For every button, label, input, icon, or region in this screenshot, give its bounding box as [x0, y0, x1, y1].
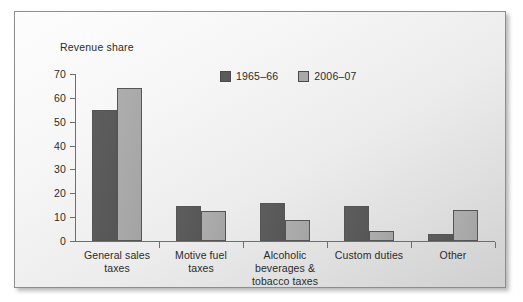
bar-series-1965-66[interactable] — [176, 206, 201, 241]
bar-series-2006-07[interactable] — [285, 220, 310, 241]
plot-area: 010203040506070 General salestaxesMotive… — [75, 74, 495, 241]
value-axis-tick-label: 30 — [54, 163, 66, 175]
category-axis-divider-tick — [411, 242, 412, 248]
category-axis-divider-tick — [159, 242, 160, 248]
bar-group — [260, 74, 310, 241]
value-axis-tick — [70, 193, 75, 194]
bar-series-1965-66[interactable] — [92, 110, 117, 241]
category-axis-divider-tick — [327, 242, 328, 248]
value-axis-tick — [70, 169, 75, 170]
bar-series-2006-07[interactable] — [201, 211, 226, 241]
category-axis-divider-tick — [495, 242, 496, 248]
bar-group — [176, 74, 226, 241]
category-axis-line — [75, 241, 495, 242]
bar-series-2006-07[interactable] — [369, 231, 394, 241]
category-axis-label: Other — [403, 249, 503, 262]
value-axis-line — [75, 74, 76, 241]
value-axis-tick — [70, 241, 75, 242]
bar-group — [344, 74, 394, 241]
bar-group — [428, 74, 478, 241]
value-axis-tick — [70, 122, 75, 123]
value-axis-tick-label: 70 — [54, 68, 66, 80]
bar-series-1965-66[interactable] — [344, 206, 369, 241]
value-axis-title: Revenue share — [60, 41, 134, 53]
chart-figure-panel: Revenue share 1965–66 2006–07 0102030405… — [14, 11, 506, 288]
bar-series-1965-66[interactable] — [260, 203, 285, 241]
value-axis-tick — [70, 74, 75, 75]
value-axis-tick — [70, 98, 75, 99]
value-axis-tick — [70, 146, 75, 147]
value-axis-tick-label: 10 — [54, 211, 66, 223]
value-axis-tick-label: 60 — [54, 92, 66, 104]
value-axis-tick-label: 40 — [54, 140, 66, 152]
bar-series-1965-66[interactable] — [428, 234, 453, 241]
value-axis-tick-label: 50 — [54, 116, 66, 128]
category-axis-divider-tick — [243, 242, 244, 248]
bar-group — [92, 74, 142, 241]
value-axis-tick — [70, 217, 75, 218]
value-axis-tick-label: 0 — [60, 235, 66, 247]
bar-series-2006-07[interactable] — [453, 210, 478, 241]
bar-series-2006-07[interactable] — [117, 88, 142, 241]
value-axis-tick-label: 20 — [54, 187, 66, 199]
